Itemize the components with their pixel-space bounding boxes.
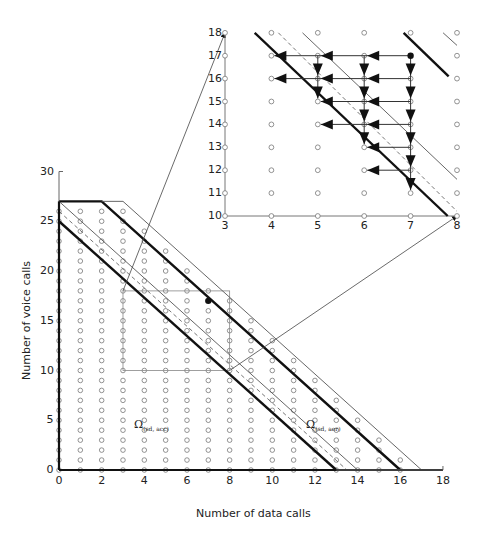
arrowhead-left-icon	[274, 74, 286, 84]
arrowhead-left-icon	[367, 165, 379, 175]
inset-lattice-point	[362, 168, 367, 173]
lattice-point	[99, 448, 104, 453]
inset-lattice-point	[455, 168, 460, 173]
lattice-point	[227, 378, 232, 383]
state-space-diagram	[0, 0, 486, 537]
inset-lattice-point	[269, 30, 274, 35]
arrowhead-down-icon	[406, 155, 416, 167]
lattice-point	[249, 348, 254, 353]
lattice-point	[185, 408, 190, 413]
lattice-point	[185, 318, 190, 323]
inset-y-tick-label: 10	[208, 209, 222, 222]
lattice-point	[313, 408, 318, 413]
lattice-point	[270, 448, 275, 453]
lattice-point	[142, 328, 147, 333]
lattice-point	[206, 378, 211, 383]
lattice-point	[163, 388, 168, 393]
inset-lattice-point	[223, 53, 228, 58]
inset-x-tick-label: 5	[314, 219, 321, 232]
lattice-point	[142, 398, 147, 403]
lattice-point	[121, 408, 126, 413]
lattice-point	[163, 378, 168, 383]
lattice-point	[78, 448, 83, 453]
lattice-point	[227, 408, 232, 413]
lattice-point	[163, 338, 168, 343]
inset-x-tick-label: 7	[407, 219, 414, 232]
lattice-point	[270, 368, 275, 373]
lattice-point	[163, 358, 168, 363]
lattice-point	[121, 249, 126, 254]
y-tick-label: 25	[40, 214, 54, 227]
y-tick-label: 15	[40, 314, 54, 327]
x-tick-label: 2	[98, 474, 105, 487]
inset-lattice-point	[269, 122, 274, 127]
lattice-point	[249, 398, 254, 403]
x-tick-label: 0	[56, 474, 63, 487]
lattice-point	[355, 438, 360, 443]
inset-x-tick-label: 3	[222, 219, 229, 232]
x-tick-label: 18	[436, 474, 450, 487]
inset-lattice-point	[362, 214, 367, 219]
lattice-point	[163, 269, 168, 274]
y-tick-label: 0	[47, 463, 54, 476]
lattice-point	[227, 428, 232, 433]
lattice-point	[270, 438, 275, 443]
inset-x-tick-label: 4	[268, 219, 275, 232]
x-tick-label: 12	[308, 474, 322, 487]
lattice-point	[99, 229, 104, 234]
inset-x-tick-label: 6	[361, 219, 368, 232]
lattice-point	[206, 418, 211, 423]
lattice-point	[249, 328, 254, 333]
inset-y-tick-label: 11	[208, 186, 222, 199]
arrowhead-down-icon	[406, 87, 416, 99]
x-tick-label: 6	[183, 474, 190, 487]
lattice-point	[78, 269, 83, 274]
lattice-point	[291, 358, 296, 363]
lattice-point	[270, 358, 275, 363]
inset-lattice-point	[223, 76, 228, 81]
lattice-point	[249, 408, 254, 413]
lattice-point	[99, 418, 104, 423]
lattice-point	[121, 448, 126, 453]
lattice-point	[270, 398, 275, 403]
lattice-point	[185, 398, 190, 403]
inset-lattice-point	[455, 53, 460, 58]
lattice-point	[78, 408, 83, 413]
lattice-point	[99, 368, 104, 373]
x-tick-label: 14	[351, 474, 365, 487]
inset-lattice-point	[269, 191, 274, 196]
inset-lattice-point	[455, 76, 460, 81]
lattice-point	[99, 388, 104, 393]
inset-y-tick-label: 12	[208, 163, 222, 176]
lattice-point	[78, 309, 83, 314]
lattice-point	[398, 458, 403, 463]
lattice-point	[99, 438, 104, 443]
lattice-point	[249, 428, 254, 433]
lattice-point	[99, 458, 104, 463]
lattice-point	[99, 299, 104, 304]
inset-lattice-point	[223, 99, 228, 104]
lattice-point	[355, 418, 360, 423]
arrowhead-left-icon	[367, 74, 379, 84]
lattice-point	[78, 458, 83, 463]
inset-lattice-point	[223, 145, 228, 150]
inset-lattice-point	[315, 168, 320, 173]
lattice-point	[206, 338, 211, 343]
lattice-point	[206, 428, 211, 433]
lattice-point	[99, 209, 104, 214]
lattice-point	[206, 438, 211, 443]
lattice-point	[99, 219, 104, 224]
omega-acc-label: Ω(sd, acc)	[134, 418, 169, 432]
inset-lattice-point	[223, 122, 228, 127]
lattice-point	[185, 348, 190, 353]
lattice-point	[78, 398, 83, 403]
lattice-point	[249, 458, 254, 463]
inset-lattice-point	[223, 191, 228, 196]
inset-lattice-point	[455, 191, 460, 196]
lattice-point	[99, 408, 104, 413]
inset-y-tick-label: 17	[208, 49, 222, 62]
x-tick-label: 4	[141, 474, 148, 487]
lattice-point	[99, 318, 104, 323]
inset-lattice-point	[455, 99, 460, 104]
lattice-point	[99, 309, 104, 314]
